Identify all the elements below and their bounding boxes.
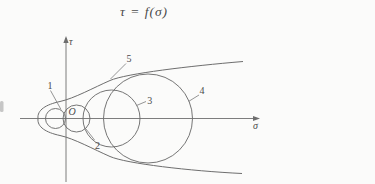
mohr-envelope-diagram: τ σ O 1 2 3 4 5	[0, 0, 375, 184]
tau-axis-arrow-icon	[63, 36, 68, 43]
callout-label-4: 4	[200, 85, 205, 96]
origin-label: O	[69, 106, 76, 117]
leader-line-2	[86, 129, 95, 140]
callout-label-5: 5	[127, 53, 132, 64]
leader-line-1	[51, 91, 62, 110]
callout-label-3: 3	[147, 95, 152, 106]
leader-line-3	[137, 102, 146, 106]
callout-4: 4	[189, 85, 205, 102]
scan-artifact	[0, 101, 4, 112]
sigma-axis-label: σ	[253, 120, 259, 131]
leader-line-4	[189, 95, 200, 102]
callout-3: 3	[137, 95, 152, 106]
figure-canvas: τ = f(σ) τ σ O 1 2 3	[0, 0, 375, 184]
callout-label-1: 1	[48, 80, 53, 91]
callout-label-2: 2	[95, 140, 100, 151]
envelope-curve-bottom	[38, 119, 242, 174]
tau-axis-label: τ	[69, 36, 73, 47]
